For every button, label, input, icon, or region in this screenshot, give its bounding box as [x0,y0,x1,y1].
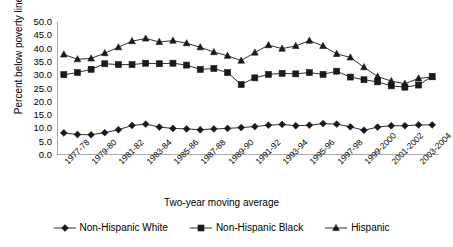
legend-label: Hispanic [351,222,389,233]
legend-label: Non-Hispanic Black [216,222,303,233]
y-tick-label: 50.0 [34,17,53,27]
y-tick-label: 25.0 [34,84,53,94]
triangle-marker-icon [325,223,347,233]
y-tick-label: 45.0 [34,30,53,40]
chart-svg [57,22,439,155]
legend-item-hispanic[interactable]: Hispanic [325,222,389,233]
axis-lines [57,22,439,155]
legend-item-non-hispanic-black[interactable]: Non-Hispanic Black [190,222,303,233]
y-tick-label: 15.0 [34,110,53,120]
y-tick-label: 0.0 [39,150,52,160]
y-tick-label: 30.0 [34,70,53,80]
y-tick-label: 20.0 [34,97,53,107]
y-tick-label: 40.0 [34,44,53,54]
y-axis-tick-labels: 50.045.040.035.030.025.020.015.010.05.00… [8,0,52,247]
y-tick-label: 5.0 [39,137,52,147]
legend-label: Non-Hispanic White [80,222,168,233]
y-tick-label: 10.0 [34,123,53,133]
legend-item-non-hispanic-white[interactable]: Non-Hispanic White [54,222,168,233]
x-axis-title: Two-year moving average [0,197,443,208]
series-hispanic [61,35,436,86]
chart-legend: Non-Hispanic WhiteNon-Hispanic BlackHisp… [0,222,443,233]
plot-area [57,22,439,155]
series-non-hispanic-white [60,120,435,138]
square-marker-icon [190,223,212,233]
diamond-marker-icon [54,223,76,233]
y-tick-label: 35.0 [34,57,53,67]
